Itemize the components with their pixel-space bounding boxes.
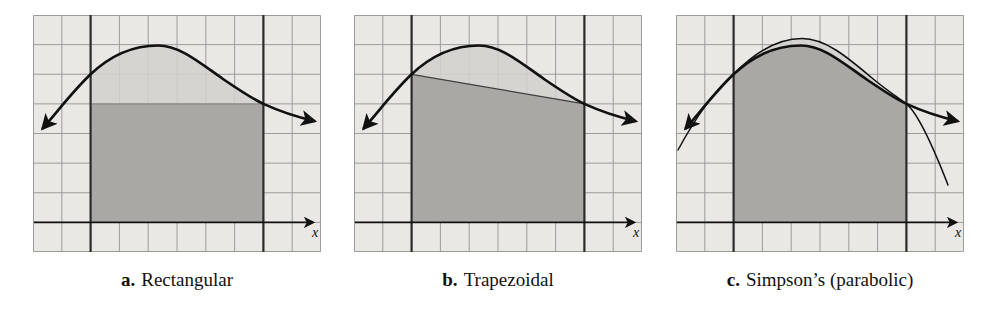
panel-simpsons: x c.Simpson’s (parabolic) — [676, 15, 964, 291]
caption-letter: a. — [121, 269, 135, 290]
caption-text: Trapezoidal — [464, 269, 554, 290]
panel-caption: a.Rectangular — [33, 269, 321, 291]
caption-letter: b. — [442, 269, 457, 290]
x-axis-label: x — [311, 225, 319, 240]
rectangle-estimate-region — [91, 104, 264, 222]
caption-text: Simpson’s (parabolic) — [746, 269, 913, 290]
panel-caption: c.Simpson’s (parabolic) — [676, 269, 964, 291]
panel-trapezoidal: x b.Trapezoidal — [354, 15, 642, 291]
caption-letter: c. — [727, 269, 740, 290]
panel-rectangular: x a.Rectangular — [33, 15, 321, 291]
panel-caption: b.Trapezoidal — [354, 269, 642, 291]
x-axis-label: x — [954, 225, 962, 240]
plot-trapezoidal: x — [354, 15, 642, 252]
caption-text: Rectangular — [141, 269, 233, 290]
x-axis-label: x — [632, 225, 640, 240]
integration-methods-figure: x a.Rectangular x b.Trapezoid — [0, 0, 986, 313]
plot-rectangular: x — [33, 15, 321, 252]
plot-simpsons: x — [676, 15, 964, 252]
